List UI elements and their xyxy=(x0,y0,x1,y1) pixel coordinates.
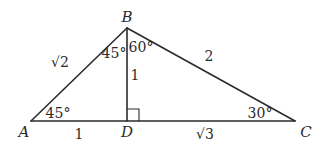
side-label-ab: √2 xyxy=(51,54,69,70)
angle-label-abd: 45° xyxy=(102,45,127,61)
side-label-bc: 2 xyxy=(205,48,214,64)
right-angle-marker xyxy=(127,109,139,121)
vertex-label-c: C xyxy=(300,123,312,141)
angle-label-dbc: 60° xyxy=(129,39,154,55)
triangle-diagram: B A D C √2 2 1 1 √3 45° 45° 60° 30° xyxy=(0,0,329,153)
angle-label-c: 30° xyxy=(248,105,273,121)
side-label-dc: √3 xyxy=(196,126,214,142)
side-label-ad: 1 xyxy=(75,126,84,142)
vertex-label-b: B xyxy=(120,8,132,26)
angle-label-a: 45° xyxy=(46,105,71,121)
side-label-bd: 1 xyxy=(131,67,140,83)
vertex-label-a: A xyxy=(17,123,30,141)
vertex-label-d: D xyxy=(120,123,133,141)
